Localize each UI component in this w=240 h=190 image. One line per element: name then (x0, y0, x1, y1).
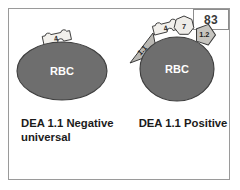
cell-stage-left: 4 RBC (9, 9, 127, 121)
rbc-positive-diagram: 1.1 4 7 1.2 (127, 9, 231, 121)
rbc-negative-diagram: 4 RBC (9, 9, 127, 121)
marker-label: 7 (182, 22, 186, 31)
marker-heptagon-7: 7 (174, 16, 194, 34)
cell-stage-right: 1.1 4 7 1.2 (127, 9, 231, 121)
marker-label: 1.2 (199, 30, 209, 39)
panel-dea-negative: 4 RBC DEA 1.1 Negative universal (9, 9, 127, 179)
caption-dea-positive: DEA 1.1 Positive (135, 117, 231, 131)
panel-dea-positive: 1.1 4 7 1.2 (127, 9, 231, 179)
figure-frame: 83 4 RBC DEA 1.1 Negative universal (8, 8, 230, 180)
rbc-label: RBC (165, 63, 189, 75)
figure-container: 83 4 RBC DEA 1.1 Negative universal (0, 0, 240, 190)
rbc-label: RBC (50, 65, 74, 77)
caption-dea-negative: DEA 1.1 Negative universal (21, 117, 125, 144)
